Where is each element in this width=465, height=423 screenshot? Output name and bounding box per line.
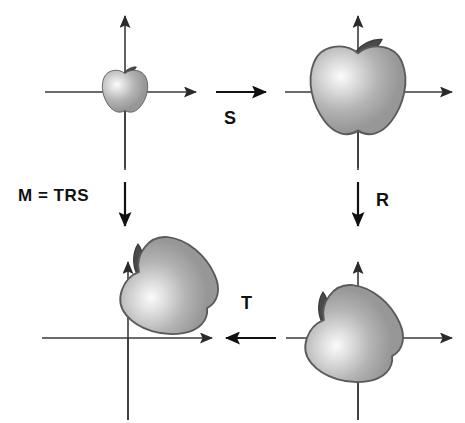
apple-scaled (311, 39, 406, 134)
translate-label: T (241, 293, 253, 314)
rotate-label: R (376, 190, 390, 211)
transformation-diagram: S R T M = TRS (0, 0, 465, 423)
apple-original (102, 67, 147, 112)
apple-translated (104, 223, 232, 351)
composite-label: M = TRS (18, 186, 89, 206)
scale-label: S (224, 108, 237, 129)
apple-rotated (289, 271, 417, 399)
axes-top-left (0, 0, 465, 423)
